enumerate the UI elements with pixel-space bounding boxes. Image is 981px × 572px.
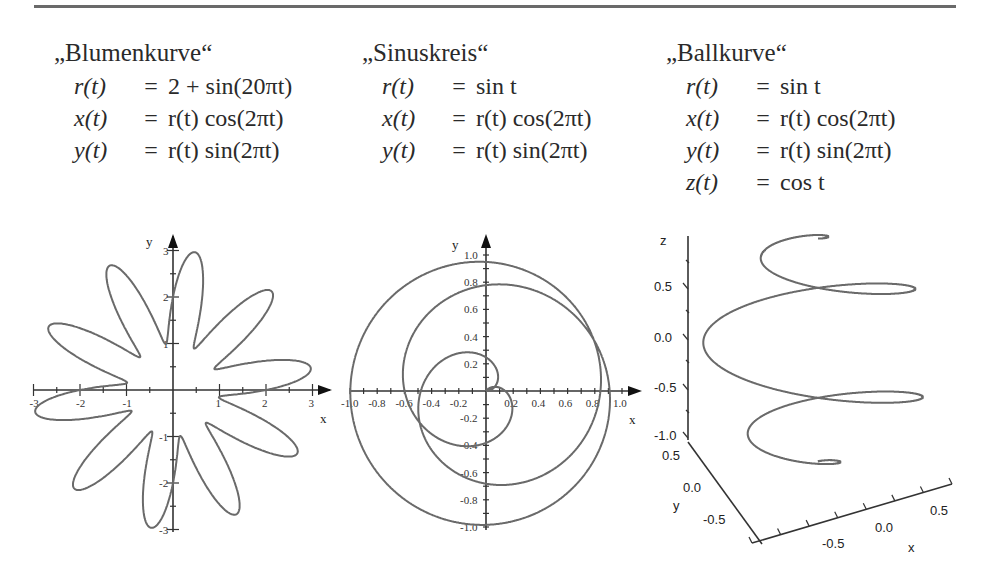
x-tick-label: 0.0 [875, 520, 893, 535]
z-tick-label: 0.5 [654, 279, 672, 294]
x-tick-label: 0.5 [930, 503, 948, 518]
y-tick-label: -0.5 [703, 512, 725, 527]
z-tick-label: 0.0 [654, 330, 672, 345]
y-axis-label: y [673, 498, 680, 513]
y-tick-label: 0.5 [662, 448, 680, 463]
y-tick-label: 0.0 [683, 480, 701, 495]
x-axis-label: x [908, 540, 915, 555]
x-tick-label: -0.5 [822, 536, 844, 551]
z-tick-label: -1.0 [654, 428, 676, 443]
z-tick-label: -0.5 [654, 380, 676, 395]
ball-curve [703, 235, 923, 464]
z-axis-label: z [660, 233, 667, 248]
ballkurve-plot: 0.50.0-0.5-1.0z0.50.0-0.5y-0.50.00.5x [0, 0, 981, 572]
x-axis [752, 484, 952, 543]
